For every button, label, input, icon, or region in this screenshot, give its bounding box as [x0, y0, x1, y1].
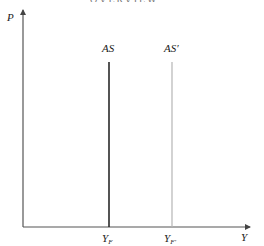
y-axis-label: P	[7, 12, 14, 23]
yf-tick-label: YF	[102, 233, 112, 246]
diagram-canvas	[0, 0, 264, 246]
as-label: AS	[102, 43, 114, 54]
x-axis-label: Y	[241, 232, 247, 243]
as-prime-label: AS′	[164, 43, 179, 54]
yf-prime-tick-label: YF′	[164, 233, 176, 246]
